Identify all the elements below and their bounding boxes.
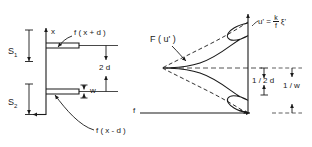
lower-slit-outline bbox=[46, 89, 79, 94]
leader-lower-slit bbox=[55, 95, 94, 130]
u-variable: u' bbox=[258, 17, 264, 26]
label-u-equation: u' = k f ξ' bbox=[258, 14, 286, 30]
label-s2: S2 bbox=[8, 98, 17, 109]
leader-transform-label bbox=[172, 46, 186, 61]
leader-upper-slit bbox=[58, 36, 72, 47]
label-fringe-spacing: 1 / 2 d bbox=[252, 77, 274, 85]
upper-slit-outline bbox=[46, 43, 79, 48]
label-axis-x: x bbox=[51, 28, 55, 36]
label-upper-slit: f ( x + d ) bbox=[74, 29, 106, 37]
label-slit-separation: 2 d bbox=[99, 64, 110, 72]
label-transform: F ( u' ) bbox=[150, 35, 176, 44]
envelope-width-dimension bbox=[272, 68, 302, 113]
label-slit-width: w bbox=[90, 87, 96, 95]
k-over-f-fraction: k f bbox=[273, 14, 279, 30]
s2-dimension bbox=[25, 84, 33, 115]
s1-dimension bbox=[25, 30, 33, 62]
equals-sign: = bbox=[266, 17, 271, 26]
figure-container: S1 S2 x f ( x + d ) f ( x - d ) 2 d w F … bbox=[0, 0, 312, 147]
label-envelope-width: 1 / w bbox=[283, 82, 300, 90]
label-lower-slit: f ( x - d ) bbox=[96, 127, 126, 135]
left-aperture-linework bbox=[25, 28, 118, 130]
xi-prime: ξ' bbox=[281, 17, 286, 26]
label-s1: S1 bbox=[8, 47, 17, 58]
label-axis-f: f bbox=[133, 107, 135, 115]
